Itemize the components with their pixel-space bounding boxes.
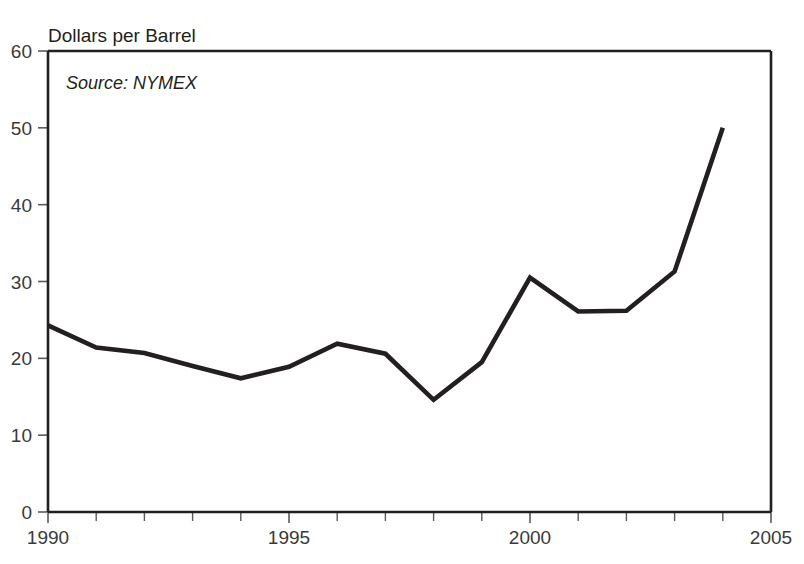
chart-canvas: Dollars per Barrel Source: NYMEX 0102030… [0, 0, 804, 564]
y-axis-title: Dollars per Barrel [48, 25, 196, 46]
y-tick-label: 50 [11, 118, 32, 139]
x-tick-label: 1990 [27, 527, 69, 548]
y-tick-label: 20 [11, 348, 32, 369]
y-tick-label: 0 [21, 502, 32, 523]
chart-figure: Dollars per Barrel Source: NYMEX 0102030… [0, 0, 804, 564]
source-annotation: Source: NYMEX [66, 73, 198, 93]
y-tick-label: 30 [11, 272, 32, 293]
x-tick-label: 2005 [750, 527, 792, 548]
x-tick-label: 1995 [268, 527, 310, 548]
y-tick-label: 10 [11, 425, 32, 446]
x-tick-label: 2000 [509, 527, 551, 548]
y-tick-label: 40 [11, 195, 32, 216]
y-tick-label: 60 [11, 41, 32, 62]
